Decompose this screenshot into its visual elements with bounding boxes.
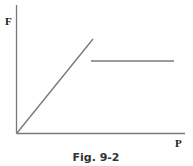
figure-caption: Fig. 9-2 <box>72 151 119 164</box>
y-axis-label: F <box>5 15 12 27</box>
x-axis-label: P <box>175 137 182 149</box>
figure-chart: F P Fig. 9-2 <box>0 0 193 166</box>
rising-line <box>17 39 93 133</box>
